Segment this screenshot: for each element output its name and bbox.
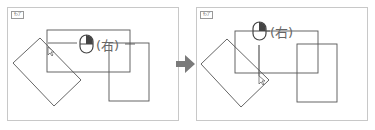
mouse-icon bbox=[80, 35, 93, 53]
cursor-icon bbox=[48, 47, 54, 56]
before-canvas: (右) bbox=[8, 8, 178, 120]
cursor-icon bbox=[259, 76, 265, 85]
after-canvas: (右) bbox=[197, 8, 367, 120]
mouse-button-label: (右) bbox=[270, 25, 293, 40]
panel-before: ｻﾝﾌﾟ (右) bbox=[7, 7, 179, 121]
mouse-button-label: (右) bbox=[96, 38, 119, 53]
panel-after: ｻﾝﾌﾟ (右) bbox=[196, 7, 368, 121]
mouse-icon bbox=[253, 22, 266, 40]
arrow-right-icon bbox=[175, 53, 197, 75]
